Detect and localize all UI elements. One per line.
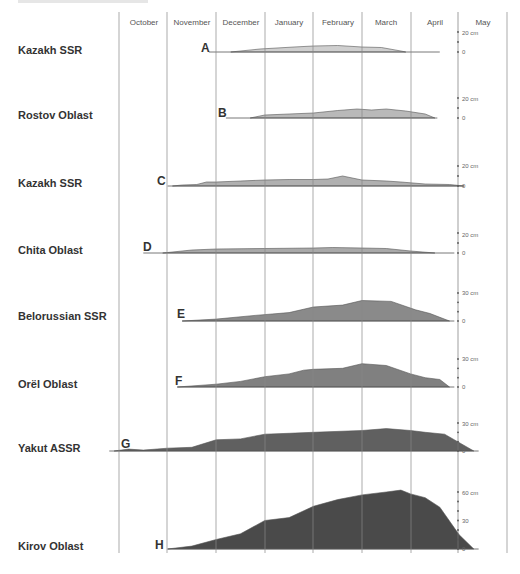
region-label-e: Belorussian SSR [18, 310, 107, 322]
axis-label-h-top: 60 cm [462, 490, 478, 496]
axis-label-f-zero: 0 [462, 384, 465, 390]
series-letter-d: D [143, 240, 152, 254]
region-label-b: Rostov Oblast [18, 109, 93, 121]
area-series-f [177, 364, 449, 387]
month-label-october: October [120, 18, 168, 27]
area-series-d [163, 248, 435, 254]
series-letter-a: A [201, 41, 210, 55]
series-letter-g: G [121, 437, 130, 451]
month-label-february: February [314, 18, 362, 27]
area-series-a [231, 46, 406, 53]
month-label-november: November [168, 18, 216, 27]
axis-label-d-zero: 0 [462, 250, 465, 256]
month-label-may: May [459, 18, 507, 27]
month-label-march: March [362, 18, 410, 27]
axis-label-g-zero: 0 [462, 448, 465, 454]
axis-label-a-zero: 0 [462, 49, 465, 55]
region-label-g: Yakut ASSR [18, 442, 81, 454]
region-label-c: Kazakh SSR [18, 177, 82, 189]
area-series-b [250, 109, 435, 118]
series-letter-c: C [157, 174, 166, 188]
month-label-january: January [265, 18, 313, 27]
area-series-e [182, 301, 449, 322]
axis-label-b-zero: 0 [462, 115, 465, 121]
axis-label-c-top: 20 cm [462, 163, 478, 169]
series-letter-e: E [177, 307, 185, 321]
region-label-f: Orël Oblast [18, 378, 77, 390]
region-label-h: Kirov Oblast [18, 540, 83, 552]
axis-label-e-zero: 0 [462, 318, 465, 324]
axis-label-e-top: 30 cm [462, 290, 478, 296]
axis-label-f-top: 30 cm [462, 356, 478, 362]
axis-label-d-top: 20 cm [462, 232, 478, 238]
axis-label-c-zero: 0 [462, 183, 465, 189]
area-series-g [114, 429, 474, 451]
axis-label-a-top: 20 cm [462, 30, 478, 36]
region-label-a: Kazakh SSR [18, 44, 82, 56]
month-label-december: December [217, 18, 265, 27]
axis-label-b-top: 20 cm [462, 96, 478, 102]
series-letter-f: F [175, 374, 182, 388]
month-label-april: April [411, 18, 459, 27]
series-letter-h: H [155, 538, 164, 552]
chart-grid [0, 0, 520, 574]
axis-label-h-mid: 30 [462, 518, 469, 524]
region-label-d: Chita Oblast [18, 244, 83, 256]
axis-label-g-top: 30 cm [462, 421, 478, 427]
snow-cover-chart: October November December January Februa… [0, 0, 520, 574]
series-letter-b: B [218, 106, 227, 120]
axis-label-h-zero: 0 [462, 546, 465, 552]
area-series-h [168, 490, 474, 549]
